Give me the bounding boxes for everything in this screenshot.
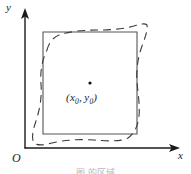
figure-drawing [0,0,191,174]
y-axis-label: y [6,2,11,13]
figure-container: y x O (x0, y0) 图 的区域 [0,0,191,174]
center-point-y-subscript: 0 [89,97,93,106]
center-point-x-subscript: 0 [75,97,79,106]
origin-label: O [12,152,21,164]
center-point-dot [88,81,91,84]
figure-caption: 图 的区域 [0,166,191,174]
x-axis-label: x [178,150,183,161]
center-point-label: (x0, y0) [66,92,97,106]
